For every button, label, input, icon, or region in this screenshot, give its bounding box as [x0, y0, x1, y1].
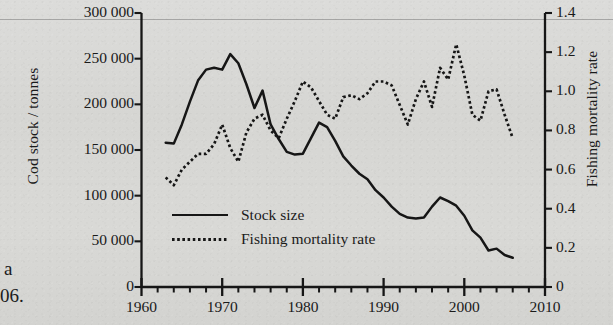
- series-line-fishing-mortality-rate: [166, 44, 513, 185]
- y-tick-label-left: 0: [30, 277, 134, 295]
- x-tick-label: 2000: [436, 298, 492, 316]
- x-tick-label: 1990: [356, 298, 412, 316]
- y-tick-label-left: 200 000: [30, 94, 134, 112]
- legend-label-fishing-mortality-rate: Fishing mortality rate: [241, 227, 375, 251]
- y-tick-label-left: 50 000: [30, 231, 134, 249]
- legend-item-fishing-mortality-rate: Fishing mortality rate: [170, 227, 375, 251]
- page-text-fragment: 06.: [0, 285, 24, 307]
- y-tick-label-right: 0.6: [556, 160, 596, 178]
- legend-swatch-solid-line-icon: [170, 209, 232, 221]
- y-tick-label-left: 150 000: [30, 140, 134, 158]
- page-text-fragment: a: [4, 258, 12, 280]
- x-tick-label: 1970: [194, 298, 250, 316]
- y-tick-label-right: 1.0: [556, 81, 596, 99]
- y-tick-label-right: 1.2: [556, 42, 596, 60]
- y-tick-label-left: 250 000: [30, 49, 134, 67]
- y-tick-label-right: 0.4: [556, 199, 596, 217]
- x-tick-label: 1980: [275, 298, 331, 316]
- legend-label-stock-size: Stock size: [241, 203, 304, 227]
- y-tick-label-right: 0.2: [556, 238, 596, 256]
- chart-legend: Stock size Fishing mortality rate: [170, 203, 375, 251]
- legend-swatch-dotted-line-icon: [170, 233, 232, 245]
- y-tick-label-left: 100 000: [30, 186, 134, 204]
- y-tick-label-left: 300 000: [30, 3, 134, 21]
- legend-item-stock-size: Stock size: [170, 203, 375, 227]
- x-tick-label: 1960: [114, 298, 170, 316]
- figure-page: Cod stock / tonnes Fishing mortality rat…: [0, 0, 613, 325]
- y-tick-label-right: 1.4: [556, 3, 596, 21]
- y-tick-label-right: 0.8: [556, 120, 596, 138]
- x-tick-label: 2010: [517, 298, 573, 316]
- y-tick-label-right: 0: [556, 277, 596, 295]
